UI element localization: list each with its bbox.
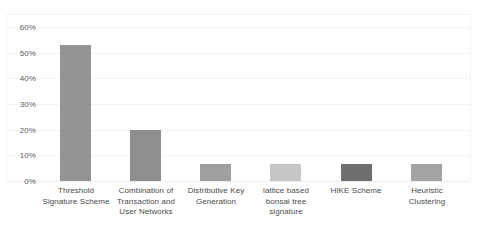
x-axis-category-label-line: Distributive Key <box>178 186 254 197</box>
x-axis-category-label-line: Combination of <box>108 186 184 197</box>
x-axis-category-label: lattice basedbonsai treesignature <box>248 186 324 218</box>
x-axis-category-label: HIKE Scheme <box>318 186 394 197</box>
x-axis-category-label-line: Threshold <box>38 186 114 197</box>
x-axis-category-label-line: Generation <box>178 197 254 208</box>
x-axis-category-label-line: Transaction and <box>108 197 184 208</box>
x-axis-category-label: Distributive KeyGeneration <box>178 186 254 207</box>
x-axis-category-label-line: Clustering <box>389 197 465 208</box>
bar <box>270 164 301 181</box>
x-axis-category-label-line: User Networks <box>108 207 184 218</box>
x-axis-category-label-line: bonsai tree <box>248 197 324 208</box>
bar <box>411 164 442 181</box>
x-axis-category-label-line: lattice based <box>248 186 324 197</box>
bar <box>200 164 231 181</box>
x-axis-category-label-line: HIKE Scheme <box>318 186 394 197</box>
x-axis-category-label: ThresholdSignature Scheme <box>38 186 114 207</box>
x-axis-category-label-line: signature <box>248 207 324 218</box>
x-axis-category-label: Combination ofTransaction andUser Networ… <box>108 186 184 218</box>
bar <box>60 45 91 181</box>
bar <box>130 130 161 181</box>
x-axis-category-label-line: Heuristic <box>389 186 465 197</box>
x-axis-category-label: HeuristicClustering <box>389 186 465 207</box>
bar-chart: 60%50%40%30%20%10%0% ThresholdSignature … <box>0 0 477 227</box>
x-axis-category-label-line: Signature Scheme <box>38 197 114 208</box>
bar <box>341 164 372 181</box>
